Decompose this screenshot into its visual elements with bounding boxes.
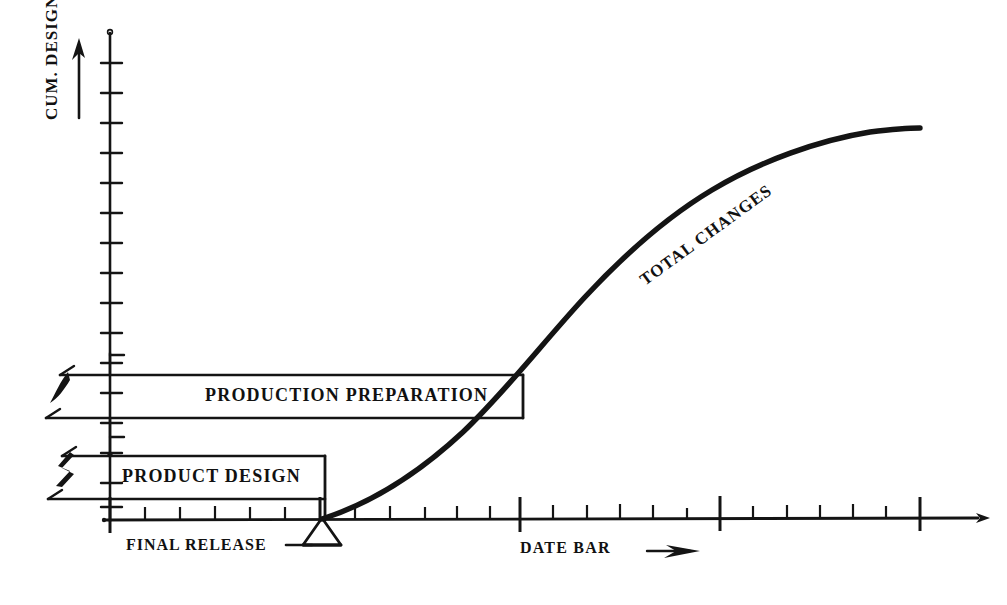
x-axis-title: DATE BAR — [520, 539, 611, 557]
x-axis-group — [102, 496, 990, 533]
y-axis-ticks — [101, 63, 122, 507]
milestone-label-final-release: FINAL RELEASE — [126, 536, 267, 554]
bar-label-product-design: PRODUCT DESIGN — [122, 466, 301, 487]
bar-label-production-preparation: PRODUCTION PREPARATION — [205, 385, 488, 406]
total-changes-curve — [322, 128, 920, 519]
diagram-vector-layer — [0, 0, 1007, 605]
x-axis-origin-dot — [102, 518, 106, 522]
date-bar-direction-arrow-icon — [647, 545, 700, 558]
x-axis-major-ticks — [110, 496, 920, 533]
diagram-canvas: CUM. DESIGN CHANGES PRODUCTION PREPARATI… — [0, 0, 1007, 605]
break-symbol-icon-design — [48, 447, 76, 499]
final-release-milestone-icon — [303, 518, 341, 545]
y-axis-direction-arrow-icon — [72, 38, 85, 118]
y-axis-group — [101, 30, 122, 521]
x-axis-line — [104, 518, 978, 520]
y-axis-title: CUM. DESIGN CHANGES — [42, 0, 62, 120]
